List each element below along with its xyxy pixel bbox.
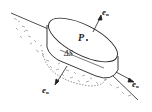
label-point-p: P <box>78 33 84 43</box>
label-delta-s: ΔS <box>64 50 73 58</box>
label-en-bottom: en <box>42 86 49 95</box>
label-en-top: en <box>102 8 109 17</box>
label-en-right: en <box>132 80 139 89</box>
point-p-dot <box>86 39 88 41</box>
diagram-canvas <box>0 0 152 112</box>
disk <box>42 9 123 78</box>
